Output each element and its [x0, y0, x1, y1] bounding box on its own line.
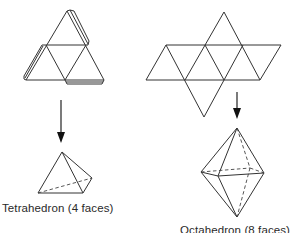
octahedron-solid [201, 128, 264, 217]
tetra-net-inner-faces [46, 45, 86, 80]
tetrahedron-net [24, 10, 104, 84]
tetra-arrow-icon [57, 100, 65, 143]
tetrahedron-label: Tetrahedron (4 faces) [2, 202, 113, 214]
polyhedra-nets-diagram: Tetrahedron (4 faces) Octahedron (8 face… [0, 0, 292, 233]
octa-arrow-icon [233, 92, 241, 119]
diagram-canvas [0, 0, 292, 233]
tetrahedron-solid [38, 152, 92, 193]
octahedron-label: Octahedron (8 faces) [180, 224, 290, 233]
octahedron-net [146, 12, 281, 117]
